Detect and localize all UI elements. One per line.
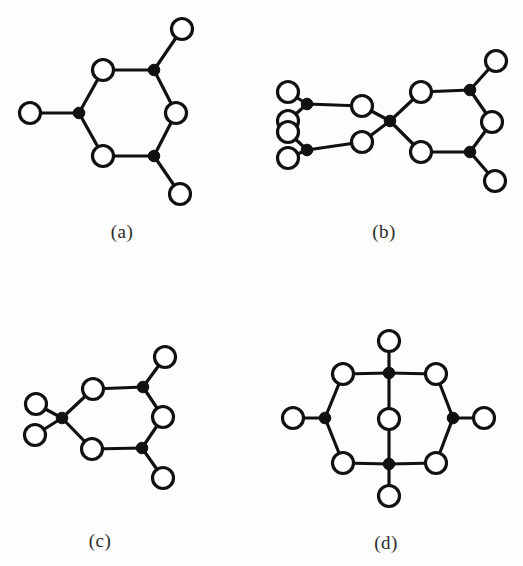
panel-label-b: (b) — [372, 221, 395, 243]
vertex-c_f_left — [56, 412, 68, 424]
vertex-c_f_topright — [137, 381, 149, 393]
vertex-b_o_end_d — [278, 148, 299, 169]
vertex-d_o_pend_bottom — [379, 486, 400, 507]
vertex-a_o_top — [93, 60, 114, 81]
vertex-a_f_left — [73, 107, 85, 119]
vertex-c_o_pend_topright — [155, 347, 176, 368]
vertex-c_o_pend_upperleft — [26, 394, 47, 415]
vertex-d_f_top — [383, 367, 395, 379]
vertex-a_o_pend_topright — [172, 19, 193, 40]
vertex-c_o_pend_lowerleft — [25, 425, 46, 446]
vertex-b_f_center — [384, 115, 396, 127]
vertex-b_o_mid_lower — [352, 132, 373, 153]
vertex-b_f_topright — [464, 84, 476, 96]
panel-c-bonds — [35, 357, 165, 478]
vertex-d_o_pend_top — [379, 331, 400, 352]
panel-b-nodes — [278, 51, 507, 192]
vertex-b_o_end_a — [278, 82, 299, 103]
panel-a-bonds — [30, 29, 182, 194]
vertex-d_o_lowerleft — [333, 453, 354, 474]
vertex-d_o_pend_left — [283, 408, 304, 429]
vertex-d_o_pend_right — [474, 408, 495, 429]
vertex-b_o_end_c — [278, 122, 299, 143]
panel-label-c: (c) — [89, 530, 111, 552]
vertex-a_o_pend_botright — [170, 184, 191, 205]
vertex-d_o_upperright — [426, 364, 447, 385]
vertex-d_o_upperleft — [333, 364, 354, 385]
figure-root: (a) (b) (c) (d) — [0, 0, 523, 566]
vertex-b_o_top — [411, 82, 432, 103]
vertex-b_o_bottom — [411, 142, 432, 163]
vertex-b_f_left_lower — [301, 144, 313, 156]
vertex-b_f_botright — [464, 146, 476, 158]
vertex-a_o_pend_left — [20, 103, 41, 124]
vertex-d_f_right — [447, 412, 459, 424]
vertex-c_o_top — [83, 379, 104, 400]
vertex-c_o_pend_botright — [153, 468, 174, 489]
vertex-b_o_pend_topright — [486, 51, 507, 72]
panel-label-a: (a) — [111, 221, 133, 243]
panel-c-nodes — [25, 347, 176, 489]
vertex-d_f_bottom — [383, 458, 395, 470]
vertex-d_o_lowerright — [426, 453, 447, 474]
structure-diagram-canvas — [0, 0, 523, 566]
vertex-d_o_center — [379, 409, 400, 430]
vertex-a_f_topright — [148, 64, 160, 76]
vertex-b_o_pend_botright — [485, 171, 506, 192]
vertex-a_o_right — [166, 103, 187, 124]
vertex-a_f_botright — [148, 150, 160, 162]
vertex-c_o_bottom — [82, 439, 103, 460]
vertex-a_o_bottom — [93, 146, 114, 167]
vertex-b_f_left_upper — [301, 98, 313, 110]
vertex-b_o_right — [482, 112, 503, 133]
vertex-b_o_mid_upper — [352, 96, 373, 117]
panel-label-d: (d) — [374, 532, 397, 554]
vertex-d_f_left — [319, 412, 331, 424]
vertex-c_f_botright — [136, 442, 148, 454]
vertex-c_o_right — [153, 407, 174, 428]
